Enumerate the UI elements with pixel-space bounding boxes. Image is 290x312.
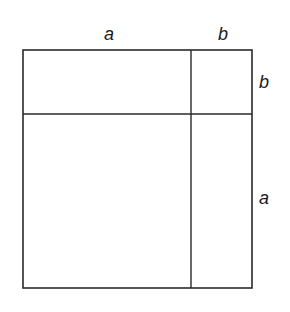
square-diagram <box>0 0 290 312</box>
label-right-b: b <box>259 73 269 91</box>
outer-square <box>23 50 252 288</box>
label-top-b: b <box>218 25 228 43</box>
label-right-a: a <box>259 189 269 207</box>
diagram-canvas: a b b a <box>0 0 290 312</box>
label-top-a: a <box>104 25 114 43</box>
